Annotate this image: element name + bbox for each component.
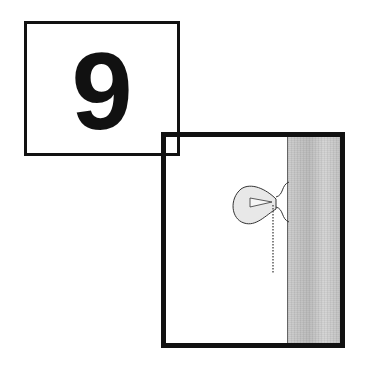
illustration-panel bbox=[161, 132, 345, 348]
number-card: 9 bbox=[24, 21, 180, 156]
overlap-frame bbox=[161, 132, 180, 156]
number-label: 9 bbox=[71, 36, 132, 146]
light-bulb-icon bbox=[166, 137, 345, 348]
